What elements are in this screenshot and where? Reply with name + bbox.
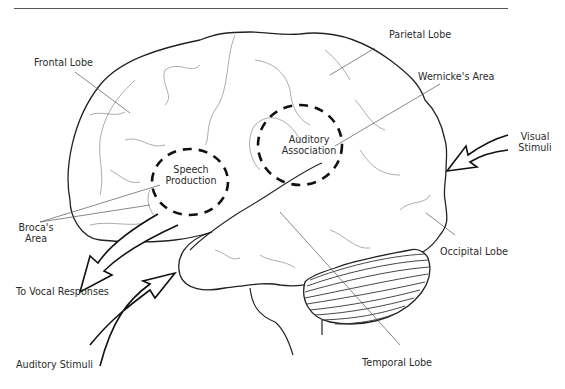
label-auditory-association-line2: Association (278, 145, 340, 156)
label-auditory-association: Auditory Association (278, 134, 340, 156)
visual-stimuli-arrow (447, 135, 508, 171)
label-speech-production-line1: Speech (160, 164, 222, 175)
label-visual-stimuli-line1: Visual (513, 131, 557, 142)
label-frontal-lobe: Frontal Lobe (34, 57, 93, 68)
label-brocas-area: Broca's Area (14, 222, 58, 244)
label-temporal-lobe: Temporal Lobe (362, 357, 432, 368)
label-auditory-association-line1: Auditory (278, 134, 340, 145)
label-speech-production-line2: Production (160, 175, 222, 186)
label-visual-stimuli-line2: Stimuli (513, 142, 557, 153)
label-auditory-stimuli: Auditory Stimuli (16, 359, 93, 370)
label-brocas-area-line2: Area (14, 233, 58, 244)
label-wernickes-area: Wernicke's Area (418, 71, 495, 82)
label-parietal-lobe: Parietal Lobe (389, 29, 451, 40)
label-speech-production: Speech Production (160, 164, 222, 186)
brainstem-outline (250, 288, 293, 355)
label-brocas-area-line1: Broca's (14, 222, 58, 233)
label-occipital-lobe: Occipital Lobe (440, 246, 508, 257)
label-visual-stimuli: Visual Stimuli (513, 131, 557, 153)
label-to-vocal-responses: To Vocal Responses (16, 286, 109, 297)
